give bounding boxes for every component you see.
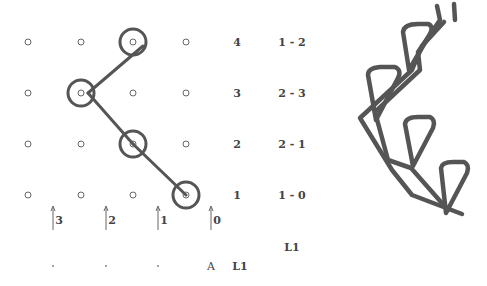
grid-dot <box>130 39 136 45</box>
grid-dot <box>183 141 189 147</box>
pair-label: 2 - 3 <box>278 88 306 99</box>
bottom-dot <box>52 265 54 267</box>
path-segment <box>88 93 133 144</box>
a-label: A <box>207 261 215 272</box>
bottom-dots <box>52 265 159 267</box>
path-node-circle <box>120 29 146 55</box>
arrow-label: 0 <box>213 215 221 226</box>
path-lines <box>88 46 186 195</box>
loop-cone-4 <box>441 162 468 213</box>
grid-dot <box>78 90 84 96</box>
arrow-label: 2 <box>108 215 116 226</box>
arrow-label: 3 <box>55 215 63 226</box>
grid-dot <box>78 39 84 45</box>
bottom-dot <box>157 265 159 267</box>
grid-dot <box>25 192 31 198</box>
arrow-label: 1 <box>160 215 168 226</box>
level-label: 3 <box>233 88 241 99</box>
diagram-canvas: 43211 - 22 - 32 - 11 - 03210 L1 A L1 <box>0 0 487 286</box>
pair-label: 2 - 1 <box>278 139 306 150</box>
strand-secondary-path <box>375 6 448 210</box>
lattice-path-diagram <box>0 0 487 286</box>
grid-dot <box>130 90 136 96</box>
bottom-dot <box>105 265 107 267</box>
grid-dot <box>25 39 31 45</box>
grid-dot <box>78 192 84 198</box>
l1-upper-label: L1 <box>284 242 299 253</box>
l1-bottom-label: L1 <box>232 261 247 272</box>
path-node-circles <box>68 29 199 208</box>
strand-3d-figure <box>360 4 468 214</box>
grid-dot <box>130 192 136 198</box>
grid-dot <box>183 39 189 45</box>
pair-label: 1 - 2 <box>278 37 306 48</box>
grid-dot <box>25 141 31 147</box>
grid-dot <box>78 141 84 147</box>
path-segment <box>88 46 143 93</box>
pair-label: 1 - 0 <box>278 190 306 201</box>
strand-top-tail <box>454 4 455 20</box>
level-label: 2 <box>233 139 241 150</box>
path-segment <box>133 144 186 195</box>
grid-dot <box>183 90 189 96</box>
column-arrows <box>51 206 213 230</box>
level-label: 1 <box>233 190 241 201</box>
loop-cone-3 <box>405 117 434 166</box>
level-label: 4 <box>233 37 241 48</box>
grid-dot <box>25 90 31 96</box>
